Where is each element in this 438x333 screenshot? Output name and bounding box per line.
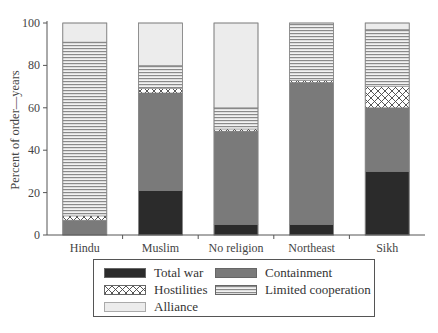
x-tick-label: Northeast xyxy=(288,241,335,255)
alliance-swatch-icon xyxy=(104,302,146,312)
x-tick-label: Sikh xyxy=(376,241,398,255)
x-axis: HinduMuslimNo religionNortheastSikh xyxy=(47,235,425,255)
bar-segment-limited-cooperation xyxy=(290,23,334,80)
hostilities-swatch-icon xyxy=(104,285,146,295)
bar-segment-hostilities xyxy=(138,89,182,93)
bar-segment-limited-cooperation xyxy=(63,42,107,216)
bar-segment-hostilities xyxy=(63,216,107,220)
bar-segment-total-war xyxy=(138,190,182,235)
legend-label: Hostilities xyxy=(154,282,207,298)
bar-northeast xyxy=(290,23,334,235)
bar-segment-alliance xyxy=(63,23,107,42)
y-tick-label: 100 xyxy=(22,16,40,30)
bar-sikh xyxy=(365,23,409,235)
legend-item-hostilities: Hostilities xyxy=(104,282,207,298)
legend-item-limited-cooperation: Limited cooperation xyxy=(215,282,371,298)
legend-label: Total war xyxy=(154,265,203,281)
legend-item-containment: Containment xyxy=(215,265,332,281)
legend-label: Containment xyxy=(265,265,332,281)
bar-segment-alliance xyxy=(214,23,258,108)
bar-segment-containment xyxy=(290,82,334,224)
bar-segment-hostilities xyxy=(290,80,334,82)
bar-muslim xyxy=(138,23,182,235)
legend-item-total-war: Total war xyxy=(104,265,203,281)
bar-segment-alliance xyxy=(138,23,182,65)
bar-segment-total-war xyxy=(365,171,409,235)
legend-item-alliance: Alliance xyxy=(104,299,198,315)
bar-segment-hostilities xyxy=(365,87,409,108)
legend-label: Limited cooperation xyxy=(265,282,371,298)
bar-segment-limited-cooperation xyxy=(138,65,182,88)
containment-swatch-icon xyxy=(215,268,257,278)
y-tick-label: 0 xyxy=(34,228,40,242)
bar-segment-containment xyxy=(138,93,182,191)
bar-segment-containment xyxy=(365,108,409,172)
x-tick-label: Hindu xyxy=(70,241,100,255)
legend: Total war Containment Hostilities Limite… xyxy=(93,259,375,317)
bar-segment-limited-cooperation xyxy=(365,29,409,86)
y-axis: 020406080100 xyxy=(22,16,47,242)
bar-hindu xyxy=(63,23,107,235)
total-war-swatch-icon xyxy=(104,268,146,278)
y-tick-label: 40 xyxy=(28,143,40,157)
bar-segment-alliance xyxy=(365,23,409,29)
y-tick-label: 20 xyxy=(28,186,40,200)
limited-cooperation-swatch-icon xyxy=(215,285,257,295)
bars xyxy=(63,23,409,235)
bar-segment-total-war xyxy=(214,224,258,235)
bar-segment-containment xyxy=(63,220,107,235)
bar-segment-limited-cooperation xyxy=(214,108,258,129)
y-tick-label: 60 xyxy=(28,101,40,115)
bar-segment-total-war xyxy=(290,224,334,235)
y-axis-title: Percent of order—years xyxy=(8,70,22,190)
x-tick-label: No religion xyxy=(209,241,264,255)
y-tick-label: 80 xyxy=(28,58,40,72)
x-tick-label: Muslim xyxy=(142,241,180,255)
bar-no-religion xyxy=(214,23,258,235)
legend-label: Alliance xyxy=(154,299,198,315)
bar-segment-containment xyxy=(214,131,258,224)
bar-segment-hostilities xyxy=(214,129,258,131)
